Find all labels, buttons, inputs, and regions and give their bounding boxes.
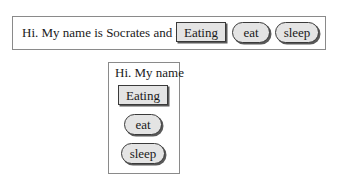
vertical-eat-button[interactable]: eat <box>124 114 162 135</box>
horizontal-greeting-label: Hi. My name is Socrates and I am <box>22 26 199 39</box>
horizontal-sleep-button[interactable]: sleep <box>275 22 319 43</box>
horizontal-eat-button[interactable]: eat <box>232 22 270 43</box>
vertical-greeting-label: Hi. My name <box>115 66 184 79</box>
vertical-sleep-button[interactable]: sleep <box>121 143 165 164</box>
horizontal-eating-button[interactable]: Eating <box>176 22 226 42</box>
vertical-eating-button[interactable]: Eating <box>118 85 168 105</box>
